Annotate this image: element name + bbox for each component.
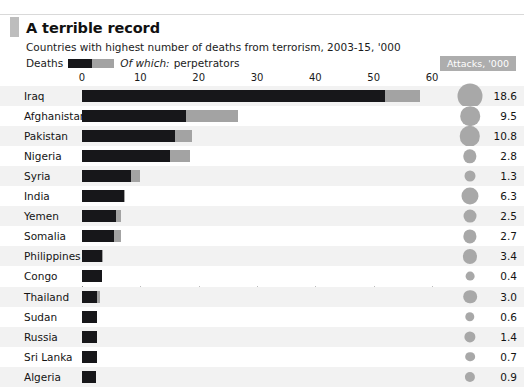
- attacks-bubble: [460, 106, 480, 126]
- attacks-bubble: [464, 210, 477, 223]
- x-axis-tick-60: 60: [426, 72, 439, 83]
- attacks-bubble: [463, 290, 477, 304]
- bar-deaths: [82, 371, 96, 383]
- bar-perpetrators: [97, 291, 100, 303]
- table-row[interactable]: Sri Lanka0.7: [0, 347, 524, 367]
- table-row[interactable]: Somalia2.7: [0, 226, 524, 246]
- attacks-value: 1.4: [491, 331, 517, 343]
- legend-perpetrators-label: perpetrators: [174, 57, 240, 69]
- attacks-value: 18.6: [491, 90, 517, 102]
- chart-subtitle: Countries with highest number of deaths …: [26, 41, 401, 53]
- country-label-nigeria: Nigeria: [24, 150, 62, 162]
- bar-perpetrators: [131, 170, 140, 182]
- table-row[interactable]: Sudan0.6: [0, 307, 524, 327]
- attacks-value: 9.5: [491, 110, 517, 122]
- row-stripe: [0, 226, 524, 246]
- country-label-afghanistan: Afghanistan: [24, 110, 87, 122]
- bar-perpetrators: [116, 210, 121, 222]
- row-stripe: [0, 327, 524, 347]
- bar-perpetrators: [186, 110, 238, 122]
- country-label-somalia: Somalia: [24, 230, 66, 242]
- bar-perpetrators: [175, 130, 191, 142]
- chart-root: A terrible record Countries with highest…: [0, 0, 524, 387]
- row-stripe: [0, 166, 524, 186]
- bar-deaths: [82, 190, 124, 202]
- bar-deaths: [82, 130, 175, 142]
- bar-perpetrators: [124, 190, 125, 202]
- row-stripe: [0, 287, 524, 307]
- bar-deaths: [82, 150, 170, 162]
- bar-deaths: [82, 331, 97, 343]
- table-row[interactable]: Thailand3.0: [0, 287, 524, 307]
- bar-perpetrators: [114, 230, 121, 242]
- bar-perpetrators: [385, 90, 420, 102]
- table-row[interactable]: Yemen2.5: [0, 206, 524, 226]
- bar-deaths: [82, 250, 102, 262]
- attacks-value: 1.3: [491, 170, 517, 182]
- bar-deaths: [82, 351, 97, 363]
- top-divider: [0, 14, 524, 15]
- bar-deaths: [82, 270, 102, 282]
- country-label-philippines: Philippines: [24, 250, 81, 262]
- attacks-value: 3.4: [491, 250, 517, 262]
- attacks-bubble: [458, 84, 483, 109]
- x-axis-tick-50: 50: [367, 72, 380, 83]
- attacks-value: 0.4: [491, 270, 517, 282]
- table-row[interactable]: Russia1.4: [0, 327, 524, 347]
- table-row[interactable]: Pakistan10.8: [0, 126, 524, 146]
- chart-legend: Deaths Of which: perpetrators: [26, 57, 239, 69]
- row-stripe: [0, 146, 524, 166]
- row-stripe: [0, 186, 524, 206]
- row-stripe: [0, 266, 524, 286]
- country-label-yemen: Yemen: [24, 210, 59, 222]
- x-axis-tick-10: 10: [134, 72, 147, 83]
- attacks-value: 10.8: [491, 130, 517, 142]
- table-row[interactable]: Afghanistan9.5: [0, 106, 524, 126]
- row-stripe: [0, 367, 524, 387]
- table-row[interactable]: Philippines3.4: [0, 246, 524, 266]
- x-axis-tick-labels: 0102030405060: [0, 72, 524, 86]
- table-row[interactable]: Syria1.3: [0, 166, 524, 186]
- attacks-value: 0.6: [491, 311, 517, 323]
- bar-deaths: [82, 291, 97, 303]
- country-label-congo: Congo: [24, 270, 58, 282]
- table-row[interactable]: India6.3: [0, 186, 524, 206]
- row-stripe: [0, 347, 524, 367]
- table-row[interactable]: Nigeria2.8: [0, 146, 524, 166]
- row-stripe: [0, 307, 524, 327]
- attacks-bubble: [464, 171, 475, 182]
- attacks-bubble: [466, 272, 475, 281]
- attacks-value: 2.5: [491, 210, 517, 222]
- legend-swatch-deaths: [68, 59, 92, 68]
- attacks-value: 2.8: [491, 150, 517, 162]
- x-axis-tick-40: 40: [309, 72, 322, 83]
- attacks-column-badge: Attacks, '000: [440, 56, 516, 71]
- row-stripe: [0, 206, 524, 226]
- attacks-value: 0.9: [491, 371, 517, 383]
- country-label-russia: Russia: [24, 331, 58, 343]
- attacks-bubble: [465, 352, 475, 362]
- table-row[interactable]: Congo0.4: [0, 266, 524, 286]
- country-label-sudan: Sudan: [24, 311, 57, 323]
- page-title: A terrible record: [26, 20, 160, 36]
- table-row[interactable]: Iraq18.6: [0, 86, 524, 106]
- legend-swatch-icon: [68, 59, 114, 68]
- legend-deaths-label: Deaths: [26, 57, 63, 69]
- country-label-thailand: Thailand: [24, 291, 69, 303]
- row-stripe: [0, 126, 524, 146]
- attacks-value: 0.7: [491, 351, 517, 363]
- bar-deaths: [82, 110, 186, 122]
- attacks-value: 6.3: [491, 190, 517, 202]
- bar-perpetrators: [102, 250, 103, 262]
- table-row[interactable]: Algeria0.9: [0, 367, 524, 387]
- x-axis-tick-30: 30: [251, 72, 264, 83]
- plot-area: 0102030405060 Iraq18.6Afghanistan9.5Paki…: [0, 72, 524, 387]
- legend-ofwhich-label: Of which:: [120, 57, 169, 69]
- x-axis-tick-20: 20: [192, 72, 205, 83]
- title-accent-bar: [10, 17, 19, 37]
- country-label-sri-lanka: Sri Lanka: [24, 351, 73, 363]
- attacks-value: 3.0: [491, 291, 517, 303]
- bar-perpetrators: [170, 150, 190, 162]
- chart-rows: Iraq18.6Afghanistan9.5Pakistan10.8Nigeri…: [0, 86, 524, 387]
- attacks-value: 2.7: [491, 230, 517, 242]
